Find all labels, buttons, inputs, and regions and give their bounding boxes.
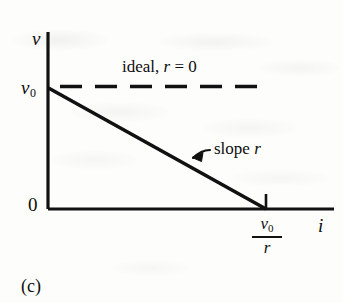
ideal-annotation-text: ideal, — [122, 57, 159, 76]
fraction-numerator-subscript: 0 — [268, 222, 274, 234]
fraction-numerator-base: v — [260, 214, 268, 233]
origin-label: 0 — [28, 195, 38, 214]
y-intercept-subscript: 0 — [30, 86, 36, 100]
fraction-numerator: v0 — [252, 215, 282, 235]
y-intercept-base: v — [21, 77, 29, 98]
x-axis-label: i — [318, 216, 323, 235]
ideal-annotation-variable: r — [164, 57, 171, 76]
slope-annotation-variable: r — [254, 139, 261, 158]
plot-canvas — [0, 0, 343, 303]
ideal-annotation-value: = 0 — [174, 57, 196, 76]
y-intercept-label: v0 — [21, 78, 36, 99]
figure-caption: (c) — [21, 277, 41, 295]
slope-annotation: slope r — [214, 140, 261, 157]
figure-container: v v0 0 i v0 r ideal, r = 0 slope r (c) — [0, 0, 343, 303]
fraction-denominator: r — [252, 239, 282, 256]
ideal-line-annotation: ideal, r = 0 — [122, 58, 197, 75]
y-axis-label: v — [32, 29, 40, 48]
x-intercept-fraction: v0 r — [252, 215, 282, 256]
slope-annotation-text: slope — [214, 139, 250, 158]
